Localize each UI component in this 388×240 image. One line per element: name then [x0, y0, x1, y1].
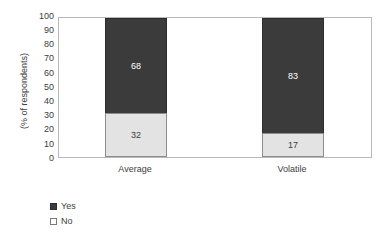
bar-value-average-no: 32	[131, 130, 141, 140]
legend-swatch-yes-icon	[50, 203, 57, 210]
legend-item-yes: Yes	[50, 199, 170, 213]
x-label-average: Average	[90, 163, 180, 175]
y-tick-40: 40	[30, 96, 54, 107]
bar-segment-average-yes: 68	[105, 18, 167, 113]
bar-value-volatile-no: 17	[288, 140, 298, 150]
legend-item-no: No	[50, 214, 170, 228]
legend-label-no: No	[61, 216, 73, 226]
y-tick-100: 100	[30, 11, 54, 22]
y-tick-60: 60	[30, 68, 54, 79]
y-tick-0: 0	[30, 153, 54, 164]
bar-average: 68 32	[105, 18, 167, 157]
y-tick-90: 90	[30, 25, 54, 36]
bar-segment-volatile-yes: 83	[262, 18, 324, 133]
x-label-volatile: Volatile	[247, 163, 337, 175]
stacked-bar-chart: (% of respondents) 100 90 80 70 60 50 40…	[0, 0, 388, 240]
plot-area: 68 32 83 17	[58, 17, 372, 158]
y-axis-title: (% of respondents)	[19, 26, 29, 156]
y-tick-20: 20	[30, 124, 54, 135]
y-tick-70: 70	[30, 53, 54, 64]
y-tick-10: 10	[30, 139, 54, 150]
bar-segment-volatile-no: 17	[262, 133, 324, 157]
bar-volatile: 83 17	[262, 18, 324, 157]
y-axis-tick-labels: 100 90 80 70 60 50 40 30 20 10 0	[30, 11, 54, 163]
bars-layer: 68 32 83 17	[59, 18, 371, 157]
legend: Yes No	[50, 199, 170, 229]
legend-label-yes: Yes	[61, 201, 76, 211]
bar-value-volatile-yes: 83	[288, 71, 298, 81]
bar-value-average-yes: 68	[131, 61, 141, 71]
y-tick-50: 50	[30, 82, 54, 93]
legend-swatch-no-icon	[50, 218, 57, 225]
y-tick-30: 30	[30, 110, 54, 121]
y-tick-80: 80	[30, 39, 54, 50]
bar-segment-average-no: 32	[105, 113, 167, 157]
x-axis-category-labels: Average Volatile	[58, 163, 372, 177]
